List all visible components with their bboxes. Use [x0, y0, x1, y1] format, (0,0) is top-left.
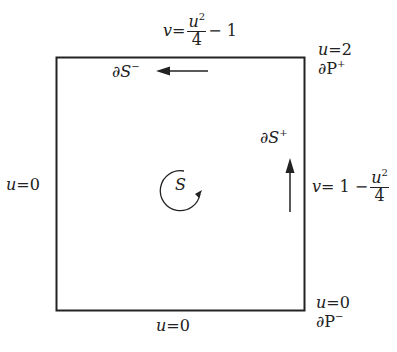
- equals-sign: =: [172, 21, 185, 40]
- var-v: v: [163, 21, 172, 40]
- var-u: u: [6, 175, 16, 194]
- value: 0: [30, 175, 40, 194]
- corner-top-right-label: u=2 ∂P+: [318, 42, 352, 77]
- top-edge-equation: v=u24− 1: [163, 14, 237, 49]
- var-v: v: [312, 177, 321, 196]
- corner-bottom-right-label: u=0 ∂P−: [316, 295, 350, 330]
- sign: +: [279, 127, 287, 138]
- var-u: u: [318, 40, 328, 59]
- denominator: 4: [187, 32, 206, 49]
- equals-sign: =: [328, 40, 341, 59]
- boundary-dP-minus: ∂P: [316, 312, 335, 331]
- var-u: u: [371, 168, 381, 187]
- minus-one: − 1: [208, 21, 237, 40]
- var-u: u: [188, 12, 198, 31]
- boundary-dP-plus: ∂P: [318, 59, 337, 78]
- equals-sign: =: [16, 175, 29, 194]
- region-S-label: S: [175, 177, 186, 193]
- dS-symbol: ∂S: [260, 128, 279, 147]
- denominator: 4: [370, 188, 389, 205]
- value: 0: [340, 293, 350, 312]
- dS-symbol: ∂S: [112, 62, 131, 81]
- equals-sign: =: [166, 316, 179, 335]
- sign: −: [131, 61, 139, 72]
- fraction-u2-over-4: u24: [187, 14, 206, 49]
- sign: −: [335, 311, 343, 322]
- equals-one-minus: = 1 −: [321, 177, 368, 196]
- diagram-canvas: v=u24− 1 u=2 ∂P+ ∂S− ∂S+ v= 1 −u24 u=0 S…: [0, 0, 397, 352]
- arrow-up-icon: [286, 158, 295, 212]
- boundary-S-plus-label: ∂S+: [260, 130, 288, 146]
- bottom-edge-equation: u=0: [156, 318, 190, 334]
- var-u: u: [156, 316, 166, 335]
- exponent: 2: [199, 11, 205, 22]
- fraction-u2-over-4: u24: [370, 170, 389, 205]
- var-u: u: [316, 293, 326, 312]
- exponent: 2: [382, 167, 388, 178]
- boundary-S-minus-label: ∂S−: [112, 64, 140, 80]
- value: 2: [342, 40, 352, 59]
- left-edge-equation: u=0: [6, 177, 40, 193]
- right-edge-equation: v= 1 −u24: [312, 170, 391, 205]
- equals-sign: =: [326, 293, 339, 312]
- value: 0: [180, 316, 190, 335]
- arrow-left-icon: [156, 67, 208, 76]
- sign: +: [337, 58, 345, 69]
